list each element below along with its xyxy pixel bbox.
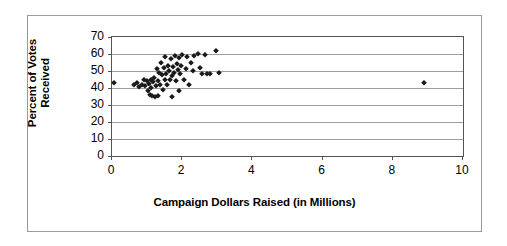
y-axis-tick-label: 20 (78, 115, 104, 127)
x-axis-tick-label: 10 (442, 164, 482, 177)
y-axis-tick-label: 70 (78, 30, 104, 42)
y-axis-tick-label: 10 (78, 132, 104, 144)
scatter-chart-figure: Percent of Votes Received 01020304050607… (0, 0, 507, 246)
y-axis-title-line-1: Percent of Votes (26, 39, 39, 127)
scatter-point (160, 87, 166, 93)
scatter-point (197, 64, 203, 70)
y-axis-title: Percent of Votes Received (16, 18, 62, 148)
scatter-points-layer (112, 37, 463, 156)
scatter-point (207, 70, 213, 76)
x-axis-tick-marks-wrap (111, 156, 463, 162)
y-axis-tick-label: 50 (78, 64, 104, 76)
x-axis-tick-mark (392, 156, 393, 160)
scatter-point (155, 93, 161, 99)
scatter-point (212, 47, 218, 53)
scatter-point (169, 93, 175, 99)
x-axis-tick-mark (111, 156, 112, 160)
y-axis-tick-labels: 010203040506070 (78, 28, 104, 162)
x-axis-tick-mark (462, 156, 463, 160)
x-axis-tick-mark (181, 156, 182, 160)
scatter-point (190, 68, 196, 74)
x-axis-tick-label: 2 (161, 164, 201, 177)
scatter-point (421, 80, 427, 86)
scatter-point (183, 66, 189, 72)
y-axis-tick-label: 30 (78, 98, 104, 110)
x-axis-tick-label: 4 (231, 164, 271, 177)
scatter-point (216, 70, 222, 76)
scatter-point (188, 59, 194, 65)
scatter-point (202, 52, 208, 58)
y-axis-tick-label: 60 (78, 47, 104, 59)
x-axis-tick-labels: 0246810 (111, 164, 463, 180)
x-axis-tick-marks (111, 156, 463, 162)
y-axis-tick-label: 40 (78, 81, 104, 93)
x-axis-tick-mark (251, 156, 252, 160)
plot-area (111, 36, 464, 157)
y-axis-title-line-2: Received (39, 58, 52, 108)
x-axis-tick-mark (322, 156, 323, 160)
scatter-point (176, 88, 182, 94)
scatter-point (181, 76, 187, 82)
scatter-point (173, 78, 179, 84)
x-axis-tick-label: 6 (302, 164, 342, 177)
y-axis-tick-label: 0 (78, 149, 104, 161)
scatter-point (111, 80, 117, 86)
scatter-point (186, 82, 192, 88)
x-axis-tick-label: 8 (372, 164, 412, 177)
x-axis-title: Campaign Dollars Raised (in Millions) (27, 196, 482, 208)
x-axis-tick-label: 0 (91, 164, 131, 177)
